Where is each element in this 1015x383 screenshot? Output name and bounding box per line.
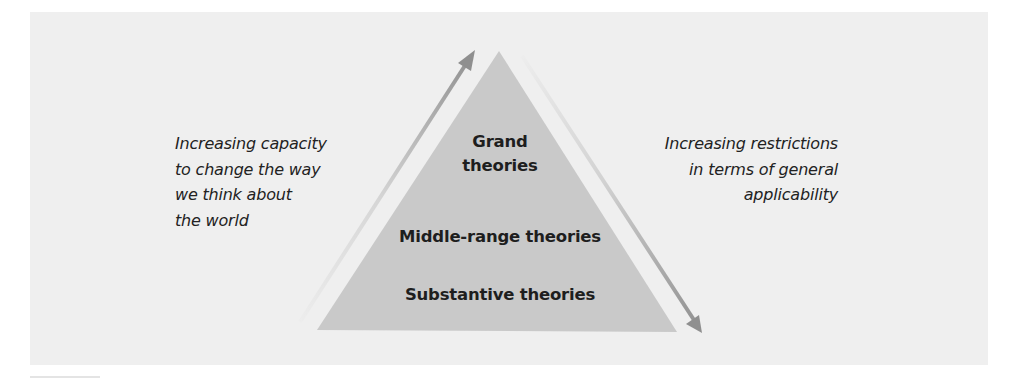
- right-annotation-text: Increasing restrictions in terms of gene…: [600, 131, 838, 208]
- tier-substantive-theories: Substantive theories: [360, 284, 640, 306]
- footer-divider: [30, 376, 100, 378]
- tier-middle-range-theories: Middle-range theories: [360, 226, 640, 248]
- pyramid-diagram: [0, 0, 1015, 383]
- left-annotation-text: Increasing capacity to change the way we…: [175, 131, 375, 233]
- tier-grand-theories: Grand theories: [420, 130, 580, 178]
